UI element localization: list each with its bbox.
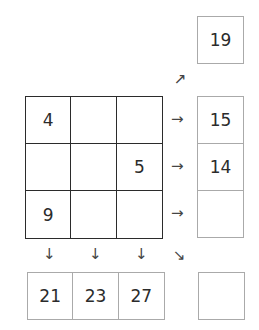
grid-cell[interactable] (117, 191, 162, 238)
down-arrow-icon: ↓ (43, 247, 56, 262)
grid-cell[interactable]: 9 (26, 191, 71, 238)
down-arrow-icon: ↓ (135, 247, 148, 262)
column-sum-box-1: 21 (28, 273, 73, 319)
diagonal-up-arrow-icon: ↗ (174, 72, 187, 87)
down-arrow-icon: ↓ (89, 247, 102, 262)
grid-cell[interactable]: 4 (26, 97, 71, 144)
grid-cell[interactable] (71, 97, 116, 144)
right-arrow-icon: → (171, 112, 184, 127)
diagonal-up-sum-box: 19 (197, 16, 244, 64)
row-sum-box-2: 14 (197, 143, 244, 191)
magic-square-grid: 4 5 9 (25, 96, 163, 239)
right-arrow-icon: → (171, 206, 184, 221)
diagonal-down-arrow-icon: ↘ (173, 248, 186, 263)
grid-cell[interactable] (71, 191, 116, 238)
grid-cell[interactable] (71, 144, 116, 191)
grid-cell[interactable] (117, 97, 162, 144)
right-arrow-icon: → (171, 159, 184, 174)
diagonal-down-sum-box (198, 272, 245, 320)
row-sum-box-1: 15 (197, 96, 244, 144)
row-sum-box-3 (197, 190, 244, 238)
grid-cell[interactable]: 5 (117, 144, 162, 191)
column-sum-box-3: 27 (119, 273, 164, 319)
column-sum-box-2: 23 (73, 273, 118, 319)
column-sums: 21 23 27 (27, 272, 165, 320)
grid-cell[interactable] (26, 144, 71, 191)
